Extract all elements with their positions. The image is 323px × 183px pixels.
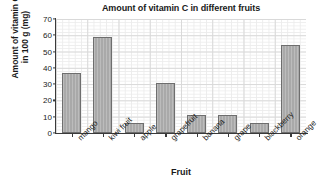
- y-axis-title-line-1: Amount of vitamin C: [9, 0, 20, 79]
- y-tick-label: 30: [43, 80, 56, 89]
- bar-grapefruit: [156, 83, 175, 133]
- y-tick-label: 40: [43, 63, 56, 72]
- x-axis-title: Fruit: [56, 167, 306, 177]
- y-tick-label: 50: [43, 47, 56, 56]
- y-axis-title-line-2: in 100 g (mg): [20, 11, 31, 63]
- vitamin-c-bar-chart: Amount of vitamin C in different fruits …: [0, 0, 323, 183]
- y-tick-label: 70: [43, 15, 56, 24]
- y-axis-title: Amount of vitamin C in 100 g (mg): [6, 0, 34, 90]
- y-tick-label: 60: [43, 31, 56, 40]
- bar-mango: [62, 73, 81, 133]
- bar-series: [56, 19, 306, 133]
- y-tick-label: 20: [43, 96, 56, 105]
- x-axis-category-labels: mangokiwi fruitapplegrapefruitbananagrap…: [56, 136, 306, 170]
- chart-title: Amount of vitamin C in different fruits: [46, 3, 316, 13]
- bar-kiwi-fruit: [93, 37, 112, 133]
- y-tick-label: 0: [48, 129, 56, 138]
- y-tick-label: 10: [43, 112, 56, 121]
